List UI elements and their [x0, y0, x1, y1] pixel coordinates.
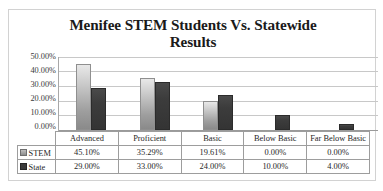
series-stem-swatch-icon	[20, 149, 27, 156]
series-state-swatch-icon	[20, 163, 27, 170]
plot-area	[58, 57, 378, 131]
bar-state-advanced	[91, 88, 106, 130]
column-header-advanced: Advanced	[56, 132, 119, 146]
table-cell-state-proficient: 33.00%	[118, 160, 181, 174]
table-row-state: State 29.00% 33.00% 24.00% 10.00% 4.00%	[18, 160, 370, 174]
column-header-proficient: Proficient	[118, 132, 181, 146]
bar-group-basic	[187, 57, 251, 130]
table-cell-stem-below-basic: 0.00%	[244, 146, 307, 160]
legend-label-state: State	[29, 162, 46, 171]
bar-stem-basic	[203, 101, 218, 130]
chart-title: Menifee STEM Students Vs. Statewide Resu…	[37, 16, 349, 50]
bar-group-advanced	[59, 57, 123, 130]
bar-state-below-basic	[275, 115, 290, 130]
table-cell-stem-basic: 19.61%	[181, 146, 244, 160]
bar-group-proficient	[123, 57, 187, 130]
bar-group-below-basic	[250, 57, 314, 130]
table-cell-stem-advanced: 45.10%	[56, 146, 119, 160]
column-header-below-basic: Below Basic	[244, 132, 307, 146]
legend-label-stem: STEM	[29, 148, 51, 157]
y-axis-tick-50: 50.00%	[30, 53, 56, 61]
y-axis-tick-0: 0.00%	[35, 123, 56, 131]
table-cell-state-advanced: 29.00%	[56, 160, 119, 174]
table-cell-stem-far-below-basic: 0.00%	[307, 146, 370, 160]
bar-state-proficient	[155, 82, 170, 130]
legend-cell-stem: STEM	[18, 146, 56, 160]
y-axis-tick-20: 20.00%	[30, 95, 56, 103]
chart-frame: Menifee STEM Students Vs. Statewide Resu…	[8, 9, 376, 181]
table-corner-cell	[18, 132, 56, 146]
plot-wrap: 50.00% 40.00% 30.00% 20.00% 10.00% 0.00%	[9, 57, 377, 135]
bar-state-far-below-basic	[339, 124, 354, 130]
y-axis-tick-40: 40.00%	[30, 67, 56, 75]
data-table: Advanced Proficient Basic Below Basic Fa…	[17, 131, 370, 174]
y-axis-tick-30: 30.00%	[30, 81, 56, 89]
bar-stem-advanced	[76, 64, 91, 130]
y-axis: 50.00% 40.00% 30.00% 20.00% 10.00% 0.00%	[9, 53, 58, 131]
column-header-basic: Basic	[181, 132, 244, 146]
table-cell-state-below-basic: 10.00%	[244, 160, 307, 174]
table-cell-state-far-below-basic: 4.00%	[307, 160, 370, 174]
chart-title-line-2: Results	[37, 33, 349, 50]
table-row-stem: STEM 45.10% 35.29% 19.61% 0.00% 0.00%	[18, 146, 370, 160]
column-header-far-below-basic: Far Below Basic	[307, 132, 370, 146]
bar-group-far-below-basic	[314, 57, 378, 130]
legend-cell-state: State	[18, 160, 56, 174]
chart-title-line-1: Menifee STEM Students Vs. Statewide	[37, 16, 349, 33]
y-axis-tick-10: 10.00%	[30, 109, 56, 117]
bar-state-basic	[218, 95, 233, 130]
bar-stem-proficient	[140, 78, 155, 130]
table-cell-stem-proficient: 35.29%	[118, 146, 181, 160]
table-cell-state-basic: 24.00%	[181, 160, 244, 174]
table-header-row: Advanced Proficient Basic Below Basic Fa…	[18, 132, 370, 146]
